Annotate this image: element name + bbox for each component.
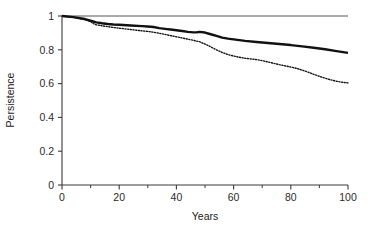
x-axis-title: Years [192, 210, 218, 222]
y-tick-label: 0 [48, 179, 54, 191]
y-tick-label: 1 [48, 10, 54, 22]
x-tick-label: 20 [113, 191, 125, 203]
x-tick-label: 60 [228, 191, 240, 203]
chart-figure: 00.20.40.60.81 020406080100 Years Persis… [0, 0, 368, 232]
y-tick-layer: 00.20.40.60.81 [39, 10, 62, 191]
x-tick-label: 80 [285, 191, 297, 203]
x-tick-label: 0 [59, 191, 65, 203]
x-tick-label: 40 [171, 191, 183, 203]
y-tick-label: 0.8 [39, 44, 54, 56]
y-tick-label: 0.4 [39, 111, 54, 123]
y-tick-label: 0.6 [39, 77, 54, 89]
x-tick-label: 100 [339, 191, 357, 203]
y-axis-title: Persistence [4, 72, 16, 127]
persistence-line-chart: 00.20.40.60.81 020406080100 Years Persis… [0, 0, 368, 232]
plot-background [62, 16, 348, 185]
x-tick-layer: 020406080100 [59, 185, 357, 203]
y-tick-label: 0.2 [39, 145, 54, 157]
